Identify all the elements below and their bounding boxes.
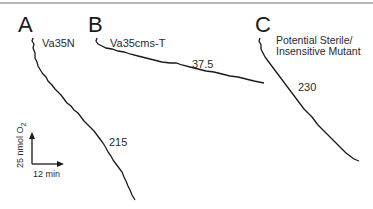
panel-letter-c: C: [255, 14, 271, 36]
panel-c-name: Potential Sterile/ Insensitive Mutant: [276, 35, 361, 57]
panel-letter-b: B: [88, 14, 103, 36]
panel-c-rate: 230: [298, 81, 316, 93]
panel-b-rate: 37.5: [192, 58, 213, 70]
panel-a-name: Va35N: [42, 37, 75, 49]
vertical-scale-label: 25 nmol O2: [15, 123, 27, 168]
scale-bar: [29, 132, 64, 167]
horizontal-scale-label: 12 min: [33, 169, 60, 179]
panel-a-rate: 215: [109, 136, 127, 148]
vertical-scale-subscript: 2: [20, 123, 27, 127]
right-arrow-icon: [57, 161, 64, 167]
panel-b-name: Va35cms-T: [110, 37, 165, 49]
panel-letter-a: A: [18, 14, 33, 36]
panel-c-name-line2: Insensitive Mutant: [276, 46, 361, 57]
vertical-scale-text: 25 nmol O: [15, 126, 25, 168]
up-arrow-icon: [29, 132, 35, 139]
